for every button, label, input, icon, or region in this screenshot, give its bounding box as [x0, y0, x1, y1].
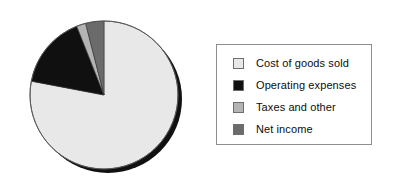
legend-swatch-icon: [233, 102, 244, 113]
legend-item-label: Taxes and other: [256, 101, 336, 114]
pie-chart-figure: Cost of goods soldOperating expensesTaxe…: [0, 0, 396, 190]
legend-item-label: Cost of goods sold: [256, 57, 349, 70]
legend-item-label: Net income: [256, 123, 313, 136]
pie-chart-area: [0, 0, 210, 190]
legend-item-label: Operating expenses: [256, 79, 356, 92]
legend: Cost of goods soldOperating expensesTaxe…: [216, 44, 372, 145]
legend-swatch-icon: [233, 124, 244, 135]
legend-item-list: Cost of goods soldOperating expensesTaxe…: [217, 45, 371, 144]
pie-slice-group: [30, 21, 178, 169]
legend-item[interactable]: Cost of goods sold: [217, 52, 371, 74]
legend-swatch-icon: [233, 80, 244, 91]
legend-item[interactable]: Net income: [217, 118, 371, 140]
legend-item[interactable]: Taxes and other: [217, 96, 371, 118]
legend-item[interactable]: Operating expenses: [217, 74, 371, 96]
pie-chart-svg: [0, 0, 210, 190]
legend-swatch-icon: [233, 58, 244, 69]
